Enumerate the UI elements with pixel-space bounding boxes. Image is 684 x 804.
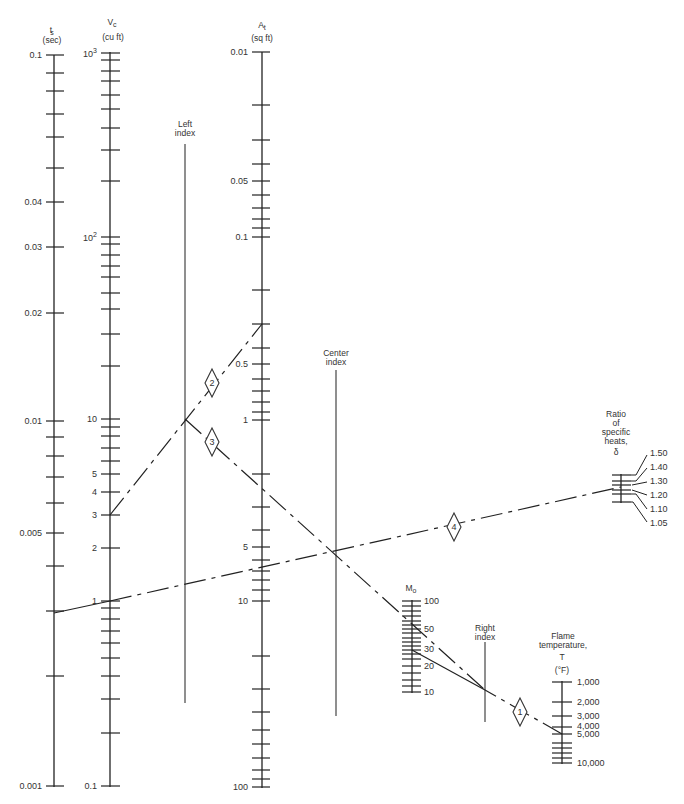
- ts-label: 0.02: [24, 308, 42, 318]
- gamma-label: 1.05: [650, 518, 668, 528]
- flame-temperature-axis: Flame temperature, T (°F) 1,000 2,000 3,…: [539, 631, 605, 768]
- key-lines: [54, 324, 621, 734]
- mo-label: 10: [424, 687, 434, 697]
- svg-text:T: T: [559, 652, 564, 662]
- at-label: 5: [243, 542, 248, 552]
- at-axis: At (sq ft) 0.01 0.05 0.1 0.5: [230, 20, 273, 792]
- mo-symbol: Mo: [406, 583, 417, 594]
- vc-label: 2: [92, 543, 97, 553]
- at-label: 0.05: [230, 176, 248, 186]
- center-index: Center index: [323, 348, 349, 716]
- svg-text:index: index: [175, 128, 196, 138]
- vc-label-100: 102: [83, 231, 97, 243]
- ts-axis: s (sec) 0.1 0.04 0.03 0.02 0.01 0.005 0.…: [19, 29, 64, 791]
- svg-text:4: 4: [451, 522, 456, 532]
- key-line-1b: [412, 650, 485, 690]
- mo-label: 100: [424, 596, 439, 606]
- ts-unit: (sec): [43, 35, 62, 45]
- ts-label: 0.005: [19, 528, 42, 538]
- key-4-marker: 4: [447, 513, 461, 541]
- at-unit: (sq ft): [251, 33, 273, 43]
- gamma-label: 1.30: [650, 476, 668, 486]
- vc-label: 4: [92, 487, 97, 497]
- svg-text:index: index: [326, 357, 347, 367]
- svg-text:temperature,: temperature,: [539, 640, 587, 650]
- at-label: 1: [243, 415, 248, 425]
- mo-label: 30: [424, 644, 434, 654]
- vc-label: 0.1: [84, 781, 97, 791]
- at-label: 0.1: [235, 232, 248, 242]
- at-label: 0.01: [230, 47, 248, 57]
- flame-label: 3,000: [577, 711, 600, 721]
- svg-text:δ: δ: [614, 447, 619, 457]
- gamma-label: 1.20: [650, 490, 668, 500]
- gamma-label: 1.40: [650, 462, 668, 472]
- ts-label: 0.1: [29, 50, 42, 60]
- vc-label: 5: [92, 469, 97, 479]
- at-symbol: At: [258, 20, 266, 31]
- ts-label: 0.03: [24, 242, 42, 252]
- ts-label: 0.01: [24, 416, 42, 426]
- ts-label: 0.001: [19, 781, 42, 791]
- vc-symbol: Vc: [107, 17, 117, 28]
- flame-label: 1,000: [577, 677, 600, 687]
- vc-label-1000: 103: [83, 47, 97, 59]
- key-line-3: [185, 419, 485, 690]
- ts-label: 0.04: [24, 197, 42, 207]
- mo-label: 50: [424, 624, 434, 634]
- nomogram: s (sec) 0.1 0.04 0.03 0.02 0.01 0.005 0.…: [0, 0, 684, 804]
- key-3-marker: 3: [205, 428, 219, 456]
- flame-label: 10,000: [577, 758, 605, 768]
- mo-axis: Mo 100 50 30 20 10: [402, 583, 439, 697]
- vc-unit: (cu ft): [102, 32, 124, 42]
- key-line-4: [110, 487, 621, 601]
- mo-label: 20: [424, 661, 434, 671]
- svg-text:index: index: [475, 632, 496, 642]
- key-1-marker: 1: [513, 698, 527, 726]
- vc-label: 10: [87, 414, 97, 424]
- right-index: Right index: [475, 623, 496, 722]
- at-label: 10: [238, 596, 248, 606]
- svg-text:1: 1: [517, 707, 522, 717]
- at-label: 0.5: [235, 359, 248, 369]
- at-label: 100: [233, 782, 248, 792]
- gamma-label: 1.50: [650, 448, 668, 458]
- svg-text:3: 3: [209, 437, 214, 447]
- vc-axis: Vc (cu ft) 103 102 10 5 4: [83, 17, 124, 791]
- vc-label: 3: [92, 510, 97, 520]
- svg-text:heats,: heats,: [604, 436, 627, 446]
- flame-label: 2,000: [577, 697, 600, 707]
- flame-label: 5,000: [577, 729, 600, 739]
- specific-heat-ratio-axis: Ratio of specific heats, δ 1.50 1.40 1.3…: [602, 409, 668, 528]
- svg-text:(°F): (°F): [555, 665, 569, 675]
- svg-text:2: 2: [209, 378, 214, 388]
- gamma-label: 1.10: [650, 504, 668, 514]
